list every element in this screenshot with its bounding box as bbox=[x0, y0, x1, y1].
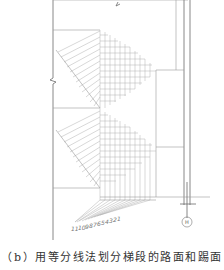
svg-text:1: 1 bbox=[117, 215, 121, 222]
arrow-mark-icon bbox=[116, 2, 120, 6]
axis-marker-h: H bbox=[180, 182, 196, 227]
upper-flight-diagonals bbox=[56, 31, 100, 108]
lower-flight-grid bbox=[100, 110, 156, 200]
left-wall bbox=[50, 0, 56, 240]
upper-flight-grid bbox=[100, 30, 156, 110]
stair-division-drawing: 11 10 9 8 7 6 5 4 3 2 1 H bbox=[0, 0, 224, 240]
svg-text:H: H bbox=[185, 219, 189, 225]
figure-caption: （b）用等分线法划分梯段的路面和踢面 bbox=[0, 248, 224, 264]
right-wall bbox=[176, 0, 190, 205]
lower-flight-diagonals bbox=[56, 111, 100, 188]
division-labels: 11 10 9 8 7 6 5 4 3 2 1 bbox=[71, 215, 121, 232]
